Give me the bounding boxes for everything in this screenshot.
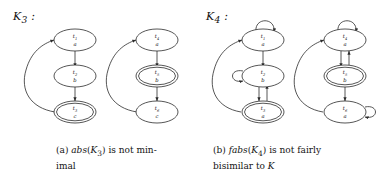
self-loop-t6 <box>365 107 376 118</box>
node-k4-t2[interactable]: t2 b <box>242 65 284 87</box>
node-t1[interactable]: t1 a <box>54 29 96 51</box>
node-t6[interactable]: t6 c <box>136 101 178 123</box>
node-t2[interactable]: t2 b <box>54 65 96 87</box>
caption-b-rest: is not fairly <box>266 145 321 155</box>
caption-a-line2: imal <box>56 161 76 171</box>
edge-t3-to-t1 <box>24 40 55 112</box>
automaton-k3-left: t1 a t2 b t3 c <box>24 29 96 123</box>
node-k4-t4[interactable]: t4 a <box>324 29 366 51</box>
node-t5-label: b <box>155 77 158 83</box>
panel-k3: K3 : t1 a <box>0 0 193 140</box>
node-k4-t4-label: a <box>343 41 346 47</box>
node-k4-t5[interactable]: t5 b <box>324 65 366 87</box>
node-t1-label: a <box>73 41 76 47</box>
caption-a-rest: is not min- <box>106 145 157 155</box>
caption-b: (b) fabs(K4) is not fairly bisimilar to … <box>213 144 343 173</box>
graph-k3: t1 a t2 b t3 c <box>0 0 193 140</box>
caption-a: (a) abs(K3) is not min-imal <box>56 144 174 173</box>
caption-b-line2-symbol: K <box>268 161 275 171</box>
caption-a-function: abs <box>71 145 87 155</box>
node-t3-label: c <box>74 113 77 119</box>
automaton-k4-left: t1 a t2 b t3 a <box>212 21 284 123</box>
edge-k4-t3-to-t1 <box>212 40 242 112</box>
edge-t6-to-t4 <box>106 40 137 112</box>
node-k4-t2-label: b <box>261 77 264 83</box>
node-t4-label: a <box>155 41 158 47</box>
graph-k4: t1 a t2 b t3 a <box>193 0 385 140</box>
node-t6-label: c <box>156 113 159 119</box>
node-t2-label: b <box>73 77 76 83</box>
node-t4[interactable]: t4 a <box>136 29 178 51</box>
node-k4-t5-label: b <box>343 77 346 83</box>
edge-k4-t6-to-t4 <box>294 40 324 112</box>
automaton-k4-right: t4 a t5 b t6 a <box>294 21 375 123</box>
node-k4-t1-label: a <box>261 41 264 47</box>
node-k4-t3[interactable]: t3 a <box>242 101 284 123</box>
node-k4-t3-label: a <box>261 113 264 119</box>
node-k4-t6[interactable]: t6 a <box>324 101 366 123</box>
caption-a-index: (a) <box>56 145 71 155</box>
figure-area: K3 : t1 a <box>0 0 385 140</box>
node-k4-t6-label: a <box>343 113 346 119</box>
caption-b-index: (b) <box>213 145 229 155</box>
caption-b-arg: K <box>251 145 258 155</box>
captions: (a) abs(K3) is not min-imal (b) fabs(K4)… <box>0 140 385 194</box>
self-loop-t2 <box>233 71 244 82</box>
automaton-k3-right: t4 a t5 b t6 c <box>106 29 178 123</box>
node-t3[interactable]: t3 c <box>54 101 96 123</box>
caption-b-function: fabs <box>229 145 248 155</box>
caption-b-line2-pre: bisimilar to <box>213 161 268 171</box>
node-t5[interactable]: t5 b <box>136 65 178 87</box>
panel-k4: K4 : <box>193 0 385 140</box>
node-k4-t1[interactable]: t1 a <box>242 29 284 51</box>
